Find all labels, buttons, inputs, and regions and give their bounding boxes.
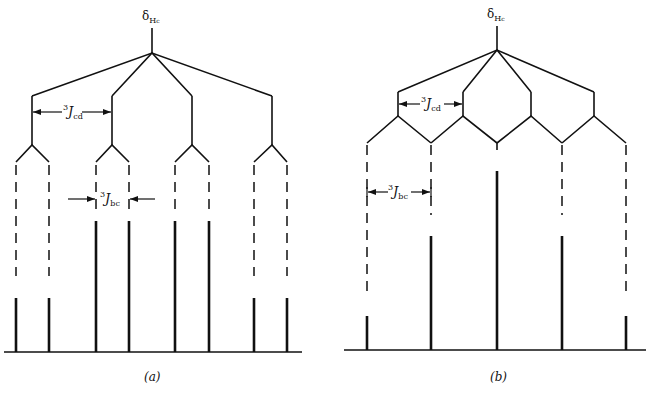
panel-caption-b: (b) — [490, 370, 507, 384]
panel-a-tree — [4, 28, 302, 352]
nmr-splitting-figure: δHc 3Jcd 3Jbc (a) δHc 3Jcd 3Jbc (b) — [0, 0, 650, 395]
coupling-label-jbc-b: 3Jbc — [388, 183, 408, 201]
chemical-shift-label-b: δHc — [487, 7, 505, 23]
splitting-tree-drawing — [0, 0, 650, 395]
coupling-label-jcd-a: 3Jcd — [63, 103, 83, 121]
chemical-shift-label-a: δHc — [142, 9, 160, 25]
coupling-label-jbc-a: 3Jbc — [100, 190, 120, 208]
coupling-label-jcd-b: 3Jcd — [421, 95, 441, 113]
panel-caption-a: (a) — [144, 370, 161, 384]
